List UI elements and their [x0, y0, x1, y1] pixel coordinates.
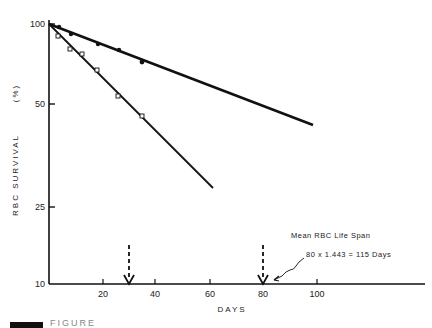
x-axis-title: DAYS — [217, 305, 246, 314]
dashed-arrow-80-days — [258, 245, 268, 284]
fit-line-slow — [49, 24, 313, 125]
squiggle-arrow-icon — [274, 258, 304, 281]
y-axis-title: RBC SURVIVAL — [11, 134, 20, 216]
y-tick-50: 50 — [35, 99, 45, 109]
data-point — [80, 52, 84, 56]
fit-line-fast — [49, 24, 213, 188]
data-point — [116, 94, 120, 98]
x-tick-80: 80 — [258, 289, 268, 299]
data-point — [69, 32, 73, 36]
data-point — [95, 68, 99, 72]
annotation-title: Mean RBC Life Span — [291, 231, 370, 240]
data-point — [117, 48, 121, 52]
data-point — [140, 114, 144, 118]
annotation-formula: 80 x 1.443 = 115 Days — [306, 250, 391, 259]
dashed-arrow-30-days — [124, 245, 134, 284]
data-point — [96, 42, 100, 46]
data-point — [68, 47, 72, 51]
x-tick-60: 60 — [205, 289, 215, 299]
data-point — [140, 60, 145, 65]
y-tick-100: 100 — [30, 19, 45, 29]
x-tick-100: 100 — [309, 289, 324, 299]
y-axis-unit: (%) — [11, 84, 20, 102]
caption-bar — [10, 322, 43, 328]
figure-caption: FIGURE — [50, 318, 96, 328]
data-point — [57, 25, 61, 29]
y-ticks — [49, 24, 55, 207]
x-tick-40: 40 — [150, 289, 160, 299]
y-tick-25: 25 — [35, 202, 45, 212]
data-point — [56, 34, 60, 38]
x-tick-20: 20 — [98, 289, 108, 299]
y-tick-10: 10 — [35, 279, 45, 289]
